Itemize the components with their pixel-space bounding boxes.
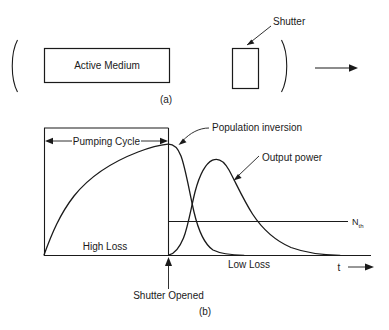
population-leader-arrow-icon xyxy=(179,128,210,145)
laser-q-switching-figure: Active Medium Shutter (a) xyxy=(0,0,389,330)
right-curved-mirror-icon xyxy=(282,40,287,92)
output-power-curve xyxy=(169,159,341,255)
panel-b-caption: (b) xyxy=(199,306,211,317)
right-arrow-icon xyxy=(348,263,374,270)
threshold-label: Nth xyxy=(352,217,364,229)
shutter-label: Shutter xyxy=(273,16,306,27)
figure-svg: Active Medium Shutter (a) xyxy=(0,0,389,330)
time-axis-label: t xyxy=(338,262,341,273)
shutter-leader-arrow-icon xyxy=(247,26,271,45)
up-arrow-icon xyxy=(165,257,172,289)
population-inversion-curve xyxy=(44,144,244,255)
output-leader-arrow-icon xyxy=(234,156,260,181)
shutter-box xyxy=(233,49,259,89)
threshold-label-sub: th xyxy=(359,223,364,229)
output-beam-arrow-icon xyxy=(315,64,358,72)
panel-b: Pumping Cycle Nth Population inversion O… xyxy=(44,122,374,317)
active-medium-label: Active Medium xyxy=(74,60,140,71)
output-power-label: Output power xyxy=(262,152,323,163)
pumping-cycle-label: Pumping Cycle xyxy=(73,136,141,147)
low-loss-label: Low Loss xyxy=(228,259,270,270)
panel-a-caption: (a) xyxy=(160,94,172,105)
population-inversion-label: Population inversion xyxy=(212,122,302,133)
panel-a: Active Medium Shutter (a) xyxy=(12,16,358,105)
left-curved-mirror-icon xyxy=(12,40,17,92)
shutter-opened-label: Shutter Opened xyxy=(133,290,204,301)
high-loss-label: High Loss xyxy=(83,241,127,252)
